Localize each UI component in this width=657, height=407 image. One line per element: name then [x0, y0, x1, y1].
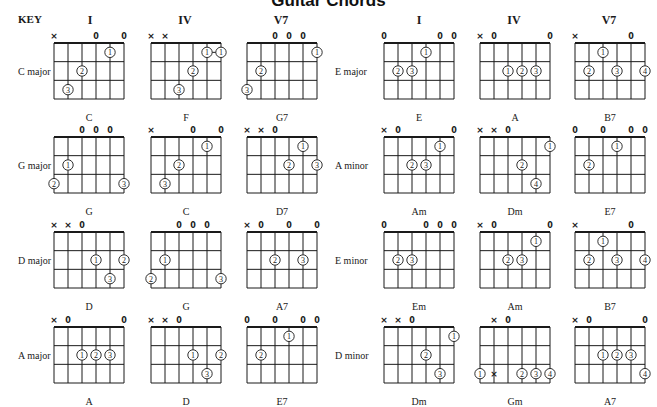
- chord-diagram: 000123E: [384, 43, 454, 118]
- finger-dot-icon: 2: [584, 66, 594, 76]
- chord-diagram: ×01234B7: [575, 43, 645, 118]
- svg-text:2: 2: [615, 351, 619, 360]
- muted-string-icon: ×: [394, 315, 402, 325]
- muted-string-icon: ×: [571, 315, 579, 325]
- finger-dot-icon: 2: [270, 255, 280, 265]
- chord-diagram: ××0123D: [151, 327, 221, 402]
- chord-name: G: [151, 301, 221, 312]
- finger-dot-icon: 4: [640, 255, 650, 265]
- svg-text:2: 2: [410, 161, 414, 170]
- key-label: A minor: [335, 160, 368, 171]
- svg-text:2: 2: [587, 67, 591, 76]
- fretboard-grid: ×00123: [480, 43, 550, 99]
- chord-diagram: ×0×1234Gm: [480, 327, 550, 402]
- svg-text:2: 2: [424, 351, 428, 360]
- open-string-icon: 0: [93, 32, 99, 41]
- finger-dot-icon: 3: [407, 66, 417, 76]
- open-string-icon: 0: [451, 221, 457, 230]
- finger-dot-icon: 2: [393, 255, 403, 265]
- open-string-icon: 0: [409, 316, 415, 325]
- column-header-V7: V7: [251, 13, 311, 28]
- muted-string-icon: ×: [490, 315, 498, 325]
- svg-text:3: 3: [424, 161, 428, 170]
- fretboard-grid: 000123: [54, 137, 124, 193]
- muted-string-icon: ×: [50, 315, 58, 325]
- finger-dot-icon: 2: [174, 160, 184, 170]
- key-label: D minor: [335, 350, 369, 361]
- finger-dot-icon: 1: [598, 47, 608, 57]
- chord-diagram: ××0123D: [54, 232, 124, 307]
- svg-text:3: 3: [615, 256, 619, 265]
- svg-text:3: 3: [245, 86, 249, 95]
- finger-dot-icon: 1: [598, 236, 608, 246]
- svg-text:3: 3: [315, 161, 319, 170]
- finger-dot-icon: 3: [105, 350, 115, 360]
- finger-dot-icon: 2: [393, 66, 403, 76]
- fretboard-grid: 000123: [247, 43, 317, 99]
- svg-text:2: 2: [520, 161, 524, 170]
- open-string-icon: 0: [572, 126, 578, 135]
- open-string-icon: 0: [381, 32, 387, 41]
- finger-dot-icon: 3: [407, 255, 417, 265]
- svg-text:3: 3: [177, 86, 181, 95]
- finger-dot-icon: 2: [503, 255, 513, 265]
- fretboard-grid: ××0124: [480, 137, 550, 193]
- finger-dot-icon: 1: [612, 141, 622, 151]
- open-string-icon: 0: [272, 32, 278, 41]
- finger-dot-icon: 1: [202, 47, 212, 57]
- svg-text:4: 4: [548, 370, 552, 379]
- open-string-icon: 0: [642, 126, 648, 135]
- muted-string-icon: ×: [476, 125, 484, 135]
- open-string-icon: 0: [300, 316, 306, 325]
- svg-text:1: 1: [94, 256, 98, 265]
- svg-text:4: 4: [643, 370, 647, 379]
- svg-text:1: 1: [287, 332, 291, 341]
- finger-dot-icon: 1: [449, 331, 459, 341]
- svg-text:2: 2: [587, 256, 591, 265]
- key-label: D major: [18, 255, 51, 266]
- open-string-icon: 0: [244, 316, 250, 325]
- muted-string-icon: ×: [161, 31, 169, 41]
- finger-dot-icon: 1: [77, 350, 87, 360]
- open-string-icon: 0: [437, 32, 443, 41]
- finger-dot-icon: 2: [256, 66, 266, 76]
- finger-dot-icon: 2: [188, 66, 198, 76]
- chord-name: E: [384, 112, 454, 123]
- finger-dot-icon: 1: [598, 350, 608, 360]
- finger-dot-icon: 1: [91, 255, 101, 265]
- chord-diagram: ×001234A7: [575, 327, 645, 402]
- finger-dot-icon: 3: [531, 368, 541, 378]
- fretboard-grid: 000012: [575, 137, 645, 193]
- finger-dot-icon: 1: [216, 47, 226, 57]
- svg-text:1: 1: [438, 142, 442, 151]
- finger-dot-icon: 2: [146, 273, 156, 283]
- finger-dot-icon: 3: [612, 255, 622, 265]
- muted-string-icon: ×: [50, 220, 58, 230]
- chord-diagram: ××0123Dm: [384, 327, 454, 402]
- finger-dot-icon: 2: [49, 178, 59, 188]
- muted-string-icon: ×: [147, 125, 155, 135]
- finger-dot-icon: 1: [545, 141, 555, 151]
- muted-string-icon: ×: [490, 125, 498, 135]
- chord-name: Am: [384, 206, 454, 217]
- muted-string-icon: ×: [257, 125, 265, 135]
- svg-text:3: 3: [534, 67, 538, 76]
- open-string-icon: 0: [314, 316, 320, 325]
- chord-diagram: ×01234B7: [575, 232, 645, 307]
- chord-name: G: [54, 206, 124, 217]
- finger-dot-icon: 3: [421, 160, 431, 170]
- chord-name: F: [151, 112, 221, 123]
- finger-dot-icon: 3: [160, 178, 170, 188]
- open-string-icon: 0: [121, 32, 127, 41]
- key-label: A major: [18, 350, 51, 361]
- fretboard-grid: ×00123: [151, 137, 221, 193]
- fretboard-grid: 000123: [151, 232, 221, 288]
- chord-name: E7: [247, 396, 317, 407]
- finger-dot-icon: 2: [517, 66, 527, 76]
- finger-dot-icon: 3: [517, 255, 527, 265]
- fretboard-grid: ××0123: [54, 232, 124, 288]
- finger-dot-icon: 1: [475, 368, 485, 378]
- fretboard-grid: ×00123: [384, 137, 454, 193]
- open-string-icon: 0: [176, 221, 182, 230]
- column-header-I: I: [389, 13, 449, 28]
